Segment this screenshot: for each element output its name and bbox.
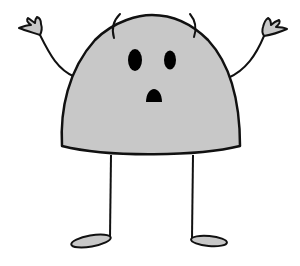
left-leg — [110, 155, 111, 237]
right-eye — [164, 51, 176, 70]
left-eye — [128, 49, 142, 71]
illustration — [0, 0, 300, 266]
right-leg — [192, 155, 193, 238]
character-drawing — [0, 0, 300, 266]
